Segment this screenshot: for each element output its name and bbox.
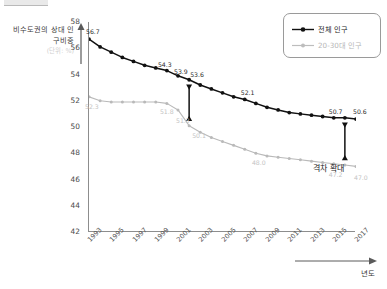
series-point	[188, 124, 191, 127]
y-axis-tick-label: 54	[60, 70, 80, 79]
y-axis-tick-label: 50	[60, 122, 80, 131]
data-point-label: 52.3	[85, 103, 99, 110]
data-point-label: 53.9	[174, 68, 188, 75]
series-point	[232, 95, 236, 99]
series-point	[265, 105, 269, 109]
series-point	[165, 69, 169, 73]
x-axis-title: 년도	[361, 267, 375, 278]
series-point	[109, 50, 113, 54]
series-point	[310, 113, 314, 117]
series-point	[89, 95, 91, 98]
series-point	[120, 56, 124, 60]
series-point	[276, 108, 280, 112]
annotation-gap-widening: 격차 확대	[313, 162, 344, 173]
series-point	[299, 158, 302, 161]
series-point	[132, 101, 135, 104]
legend-item-young-population[interactable]: 20-30대 인구	[292, 39, 362, 51]
data-point-label: 51.8	[160, 108, 174, 115]
gap-arrow-annotation	[342, 123, 348, 161]
series-point	[343, 116, 347, 120]
series-point	[99, 99, 102, 102]
series-point	[221, 140, 224, 143]
series-point	[287, 111, 291, 115]
series-point	[243, 98, 247, 102]
series-point	[243, 148, 246, 151]
data-point-label: 50.1	[192, 132, 206, 139]
series-point	[143, 101, 146, 104]
data-point-label: 52.1	[241, 89, 255, 96]
series-point	[198, 83, 202, 87]
series-point	[110, 101, 113, 104]
series-point	[121, 101, 124, 104]
series-point	[332, 116, 336, 120]
data-point-label: 51.3	[176, 117, 190, 124]
series-point	[210, 136, 213, 139]
legend-item-total-population[interactable]: 전체 인구	[292, 23, 348, 35]
y-axis-tick-label: 42	[60, 227, 80, 236]
series-point	[98, 45, 102, 49]
x-axis-title-group: 년도	[293, 253, 379, 283]
y-axis-tick-label: 56	[60, 43, 80, 52]
series-line	[89, 97, 356, 167]
legend-label-total-population: 전체 인구	[318, 24, 348, 34]
series-point	[132, 59, 136, 63]
chart-root: 비수도권의 상대 인구비중 (단위: %) 424446485052545658…	[0, 0, 387, 289]
y-axis-tick-label: 44	[60, 201, 80, 210]
series-point	[321, 115, 325, 119]
series-point	[165, 102, 168, 105]
x-axis-direction-arrow-icon	[293, 253, 379, 267]
series-point	[277, 156, 280, 159]
y-axis-tick-label: 58	[60, 17, 80, 26]
y-axis-tick-label: 48	[60, 148, 80, 157]
legend-label-young-population: 20-30대 인구	[318, 40, 362, 50]
data-point-label: 54.3	[158, 61, 172, 68]
series-point	[232, 144, 235, 147]
y-axis-tick-label: 52	[60, 96, 80, 105]
legend-marker-gray-line-icon	[292, 41, 314, 50]
series-point	[221, 91, 225, 95]
series-point	[298, 112, 302, 116]
series-point	[187, 78, 191, 82]
series-point	[177, 108, 180, 111]
data-point-label: 56.7	[86, 28, 100, 35]
y-axis-tick-label: 46	[60, 175, 80, 184]
gap-arrow-annotation	[186, 85, 192, 121]
data-point-label: 50.7	[329, 108, 343, 115]
series-point	[209, 87, 213, 91]
series-point	[254, 152, 257, 155]
series-point	[288, 157, 291, 160]
series-point	[266, 154, 269, 157]
data-point-label: 47.0	[354, 174, 368, 181]
series-point	[254, 101, 258, 105]
data-point-label: 53.6	[190, 71, 204, 78]
data-point-label: 48.0	[252, 159, 266, 166]
series-point	[143, 63, 147, 67]
series-point	[355, 165, 357, 168]
top-strip-decoration	[4, 0, 48, 6]
series-point	[354, 117, 356, 121]
chart-legend: 전체 인구 20-30대 인구	[283, 13, 381, 58]
data-point-label: 50.6	[353, 108, 367, 115]
legend-marker-black-line-icon	[292, 25, 314, 34]
series-point	[154, 101, 157, 104]
